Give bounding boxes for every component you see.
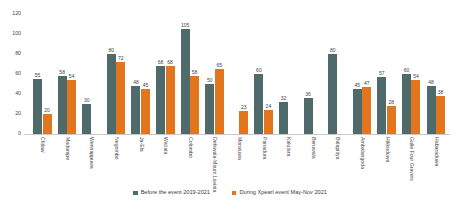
bar-slot: 48	[131, 14, 140, 134]
category-label: Ambalangoda	[350, 136, 375, 188]
bar[interactable]	[239, 111, 248, 134]
bar[interactable]	[362, 87, 371, 134]
chart-legend: Before the event 2019-2021During Xpearl …	[0, 190, 460, 196]
bar-slot: 54	[411, 14, 420, 134]
category-label-text: Kalutara	[286, 137, 291, 156]
bar[interactable]	[116, 62, 125, 134]
y-axis-tick: 20	[15, 111, 21, 116]
bar-slot: 54	[67, 14, 76, 134]
bar-value-label: 30	[84, 98, 90, 103]
bar[interactable]	[107, 54, 116, 134]
bar-value-label: 80	[109, 48, 115, 53]
bar-group: 4547	[350, 14, 375, 134]
bar[interactable]	[411, 80, 420, 134]
bar-value-label: 72	[118, 56, 124, 61]
bar-slot: 80	[328, 14, 337, 134]
bar[interactable]	[254, 74, 263, 134]
bar-value-label: 60	[256, 68, 262, 73]
bar-slot	[230, 14, 239, 134]
bar-slot	[288, 14, 297, 134]
bar[interactable]	[328, 54, 337, 134]
category-label-text: Madampe	[64, 137, 69, 160]
bar[interactable]	[387, 106, 396, 134]
bar-group: 4838	[424, 14, 449, 134]
bar-slot: 48	[427, 14, 436, 134]
bar-group: 4845	[128, 14, 153, 134]
category-label-text: Ambalangoda	[359, 137, 364, 169]
bar-value-label: 68	[167, 60, 173, 65]
bar[interactable]	[377, 77, 386, 134]
bar-value-label: 80	[330, 48, 336, 53]
bar[interactable]	[181, 29, 190, 134]
bar-slot: 28	[387, 14, 396, 134]
bar[interactable]	[141, 89, 150, 134]
category-label: Wennappuwa	[79, 136, 104, 188]
legend-item[interactable]: Before the event 2019-2021	[133, 190, 210, 196]
bar-slot: 68	[166, 14, 175, 134]
bar[interactable]	[131, 86, 140, 134]
bar-slot: 23	[239, 14, 248, 134]
bar[interactable]	[427, 86, 436, 134]
bar[interactable]	[33, 79, 42, 134]
bar-groups: 5520585430807248456868105585065236024323…	[26, 14, 450, 134]
bar[interactable]	[304, 98, 313, 134]
bar-value-label: 50	[207, 78, 213, 83]
bar-group: 5728	[374, 14, 399, 134]
bar-slot: 45	[353, 14, 362, 134]
category-label: Colombo	[178, 136, 203, 188]
y-axis: 120100806040200	[0, 14, 24, 134]
bar-slot: 50	[205, 14, 214, 134]
bar[interactable]	[436, 96, 445, 134]
y-axis-tick: 0	[18, 131, 21, 136]
category-label: Panadura	[251, 136, 276, 188]
bar-chart: 120100806040200 552058543080724845686810…	[0, 0, 460, 219]
bar-value-label: 48	[133, 80, 139, 85]
category-label: Kalutara	[276, 136, 301, 188]
bar[interactable]	[67, 80, 76, 134]
bar[interactable]	[156, 66, 165, 134]
category-label-text: Moratuwa	[236, 137, 241, 160]
bar[interactable]	[166, 66, 175, 134]
bar-slot: 80	[107, 14, 116, 134]
bar-value-label: 54	[69, 74, 75, 79]
bar[interactable]	[58, 76, 67, 134]
bar-group: 23	[227, 14, 252, 134]
plot-area: 5520585430807248456868105585065236024323…	[26, 14, 450, 134]
bar-slot	[92, 14, 101, 134]
bar-group: 32	[276, 14, 301, 134]
category-label: Hikkaduwa	[374, 136, 399, 188]
category-axis-labels: ChilawMadampeWennappuwaNegomboJa-ElaWatt…	[26, 136, 450, 188]
bar-group: 10558	[178, 14, 203, 134]
category-label-text: Hikkaduwa	[384, 137, 389, 162]
y-axis-tick: 40	[15, 91, 21, 96]
bar-group: 30	[79, 14, 104, 134]
bar[interactable]	[205, 84, 214, 134]
bar[interactable]	[353, 89, 362, 134]
bar-slot: 47	[362, 14, 371, 134]
bar-value-label: 58	[192, 70, 198, 75]
category-label-text: Panadura	[261, 137, 266, 160]
bar-value-label: 32	[281, 96, 287, 101]
bar-slot: 72	[116, 14, 125, 134]
bar-value-label: 47	[364, 81, 370, 86]
bar[interactable]	[190, 76, 199, 134]
bar[interactable]	[215, 69, 224, 134]
bar-slot: 57	[377, 14, 386, 134]
bar[interactable]	[43, 114, 52, 134]
y-axis-tick: 120	[12, 11, 21, 16]
bar-group: 36	[301, 14, 326, 134]
category-label-text: Negombo	[113, 137, 118, 160]
bar[interactable]	[264, 110, 273, 134]
category-label-text: Colombo	[187, 137, 192, 158]
bar[interactable]	[82, 104, 91, 134]
legend-swatch-before	[133, 191, 138, 196]
bar-value-label: 105	[181, 23, 189, 28]
bar[interactable]	[402, 74, 411, 134]
category-label-text: Wennappuwa	[89, 137, 94, 169]
legend-item[interactable]: During Xpearl event May-Nov 2021	[232, 190, 327, 196]
bar[interactable]	[279, 102, 288, 134]
category-label: Moratuwa	[227, 136, 252, 188]
bar-value-label: 24	[266, 104, 272, 109]
bar-value-label: 28	[389, 100, 395, 105]
category-label: Ja-Ela	[128, 136, 153, 188]
